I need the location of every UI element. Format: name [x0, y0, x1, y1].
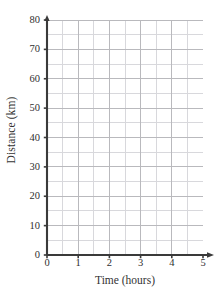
x-axis-arrow-icon: [207, 252, 214, 258]
grid-canvas: [47, 20, 203, 255]
y-tick-label: 40: [30, 132, 41, 143]
y-axis-title: Distance (km): [0, 0, 22, 260]
x-tick-label: 0: [44, 258, 49, 269]
y-tick-label: 10: [30, 220, 41, 231]
y-axis-tick-labels: 01020304050607080: [20, 20, 43, 255]
y-axis-title-label: Distance (km): [5, 97, 17, 164]
distance-time-graph: Distance (km) 01020304050607080 012345 T…: [0, 0, 219, 300]
y-tick-label: 30: [30, 162, 41, 173]
y-tick-label: 80: [30, 15, 41, 26]
x-axis-title: Time (hours): [40, 274, 210, 286]
x-tick-label: 5: [200, 258, 205, 269]
x-tick-label: 3: [138, 258, 143, 269]
y-tick-label: 70: [30, 44, 41, 55]
x-tick-label: 1: [76, 258, 81, 269]
y-tick-label: 20: [30, 191, 41, 202]
y-tick-label: 60: [30, 74, 41, 85]
y-tick-label: 0: [35, 250, 40, 261]
x-tick-label: 4: [169, 258, 174, 269]
x-axis-tick-labels: 012345: [47, 258, 203, 274]
x-tick-label: 2: [107, 258, 112, 269]
x-axis-title-label: Time (hours): [95, 274, 155, 286]
plot-area: [47, 20, 203, 255]
y-tick-label: 50: [30, 103, 41, 114]
